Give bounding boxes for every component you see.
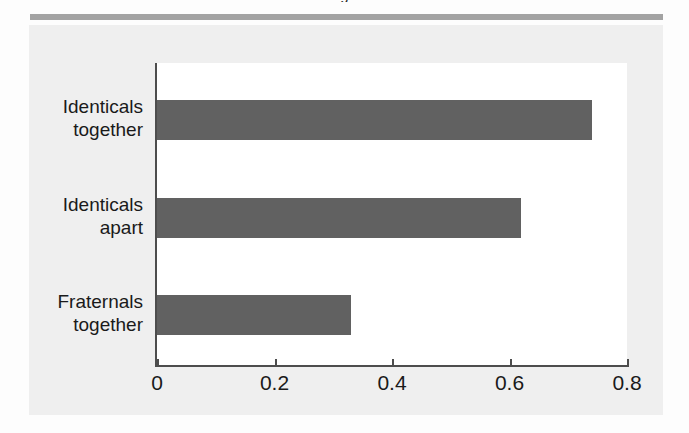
category-label-identicals-together: Identicals together bbox=[29, 95, 143, 141]
category-label-line: together bbox=[29, 118, 143, 141]
x-axis-ticks: 00.20.40.60.8 bbox=[155, 367, 627, 415]
x-tick-mark bbox=[275, 359, 277, 367]
clipped-heading: g bbox=[0, 0, 689, 2]
figure-panel: Identicals together Identicals apart Fra… bbox=[29, 25, 663, 415]
category-label-line: Identicals bbox=[29, 95, 143, 118]
x-tick-mark bbox=[627, 359, 629, 367]
header-rule bbox=[30, 14, 663, 20]
category-label-identicals-apart: Identicals apart bbox=[29, 193, 143, 239]
x-tick-mark bbox=[510, 359, 512, 367]
category-label-line: Identicals bbox=[29, 193, 143, 216]
bar-fraternals-together bbox=[157, 295, 351, 335]
category-label-fraternals-together: Fraternals together bbox=[29, 290, 143, 336]
category-label-line: Fraternals bbox=[29, 290, 143, 313]
bar-identicals-apart bbox=[157, 198, 521, 238]
x-tick-label: 0.4 bbox=[377, 371, 406, 395]
y-axis-line bbox=[155, 63, 157, 367]
x-tick-mark bbox=[392, 359, 394, 367]
category-label-line: apart bbox=[29, 216, 143, 239]
x-tick-label: 0.8 bbox=[612, 371, 641, 395]
x-tick-mark bbox=[157, 359, 159, 367]
category-axis-labels: Identicals together Identicals apart Fra… bbox=[29, 25, 151, 415]
x-tick-label: 0 bbox=[151, 371, 163, 395]
category-label-line: together bbox=[29, 313, 143, 336]
x-tick-label: 0.6 bbox=[495, 371, 524, 395]
bar-identicals-together bbox=[157, 100, 592, 140]
x-tick-label: 0.2 bbox=[260, 371, 289, 395]
